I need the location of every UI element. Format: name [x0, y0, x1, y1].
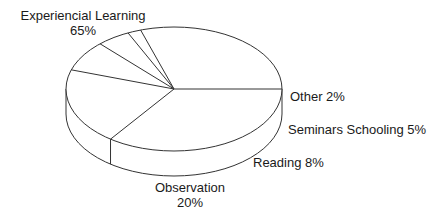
label-other: Other 2% — [290, 89, 345, 104]
label-observation-name: Observation — [150, 180, 230, 195]
label-reading: Reading 8% — [253, 155, 324, 170]
label-seminars-schooling: Seminars Schooling 5% — [288, 122, 426, 137]
pie-top-face — [66, 27, 282, 151]
label-experiential-pct: 65% — [8, 23, 158, 38]
label-observation-pct: 20% — [150, 195, 230, 210]
label-experiential-learning: Experiencial Learning 65% — [8, 8, 158, 38]
label-observation: Observation 20% — [150, 180, 230, 210]
label-experiential-name: Experiencial Learning — [8, 8, 158, 23]
